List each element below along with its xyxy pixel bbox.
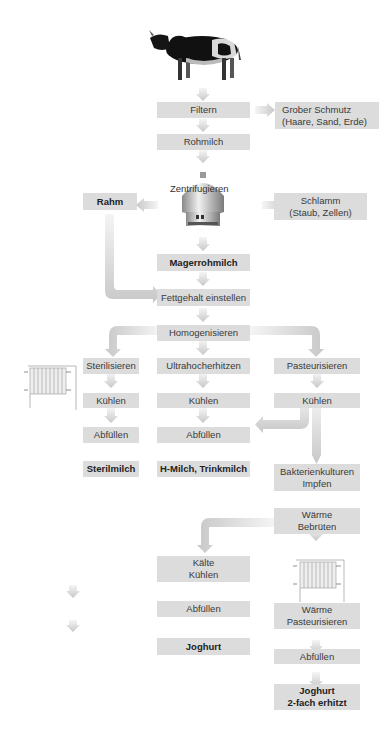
node-waerme-pasteurisieren: Wärme Pasteurisieren <box>274 603 360 629</box>
node-joghurt-2fach: Joghurt 2-fach erhitzt <box>274 684 360 710</box>
node-bakterienkulturen: Bakterienkulturen Impfen <box>274 464 360 491</box>
node-filtern: Filtern <box>157 102 250 118</box>
node-waerme-bebrueten: Wärme Bebrüten <box>274 508 360 534</box>
node-joghurt: Joghurt <box>157 638 250 655</box>
node-abfuellen-joghurt: Abfüllen <box>157 601 250 617</box>
node-pasteurisieren: Pasteurisieren <box>274 358 360 374</box>
node-kuehlen-uht: Kühlen <box>157 393 250 408</box>
node-zentrifugieren: Zentrifugieren <box>170 183 229 194</box>
node-schlamm: Schlamm (Staub, Zellen) <box>274 193 367 220</box>
node-sterilisieren: Sterilisieren <box>83 358 139 374</box>
node-rohmilch: Rohmilch <box>157 134 250 150</box>
node-h-milch: H-Milch, Trinkmilch <box>157 461 250 477</box>
node-grober-schmutz: Grober Schmutz (Haare, Sand, Erde) <box>275 102 379 129</box>
node-abfuellen-uht: Abfüllen <box>157 427 250 443</box>
node-rahm: Rahm <box>83 193 137 210</box>
node-fettgehalt-einstellen: Fettgehalt einstellen <box>157 289 250 306</box>
down-arrows <box>66 88 324 688</box>
node-kuehlen-steril: Kühlen <box>83 393 139 408</box>
node-abfuellen-steril: Abfüllen <box>83 427 139 443</box>
node-magerrohmilch: Magerrohmilch <box>157 254 250 271</box>
node-kuehlen-pasteur: Kühlen <box>274 393 360 408</box>
node-homogenisieren: Homogenisieren <box>157 325 250 341</box>
node-kaelte-kuehlen: Kälte Kühlen <box>157 556 250 582</box>
node-abfuellen-2fach: Abfüllen <box>274 649 360 664</box>
node-ultrahocherhitzen: Ultrahocherhitzen <box>157 358 250 374</box>
node-sterilmilch: Sterilmilch <box>83 461 139 477</box>
